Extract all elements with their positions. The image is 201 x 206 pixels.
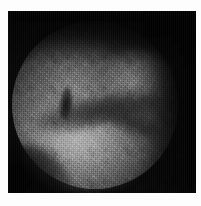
image-viewer — [0, 0, 201, 206]
endoscopy-frame — [8, 11, 196, 193]
region-right-unlit-band — [146, 11, 196, 193]
